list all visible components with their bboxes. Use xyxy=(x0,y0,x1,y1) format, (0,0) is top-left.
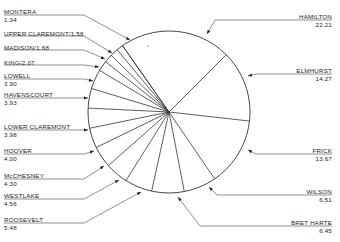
slice-label-name: McCHESNEY xyxy=(4,172,44,179)
slice-label: ELMHURST14.27 xyxy=(296,67,332,82)
arrow-icon xyxy=(101,56,105,59)
slice-label-name: LOWER CLAREMONT xyxy=(4,123,70,130)
slice-label-value: 5.48 xyxy=(4,224,43,231)
slice-label-name: HOOVER xyxy=(4,147,32,154)
arrow-icon xyxy=(90,151,94,154)
speck xyxy=(147,45,149,47)
arrow-icon xyxy=(207,30,210,34)
slice-label: WESTLAKE4.56 xyxy=(4,192,39,207)
slice-label-value: 22.21 xyxy=(299,21,332,28)
slice-label-value: 3.90 xyxy=(4,80,30,87)
leader-line xyxy=(4,50,105,59)
arrow-icon xyxy=(108,50,112,53)
arrow-icon xyxy=(248,150,252,153)
slice-label-name: LOWELL xyxy=(4,72,30,79)
slice-label-name: HAMILTON xyxy=(299,13,332,20)
slice-label-value: 4.30 xyxy=(4,180,44,187)
slice-label-value: 4.00 xyxy=(4,155,32,162)
slice-label: LOWELL3.90 xyxy=(4,72,30,87)
slice-label: ROOSEVELT5.48 xyxy=(4,216,43,231)
slice-label-value: 14.27 xyxy=(296,75,332,82)
slice-label-name: ROOSEVELT xyxy=(4,216,43,223)
slice-label-name: FRICK xyxy=(312,147,332,154)
pie-slices xyxy=(88,31,250,193)
arrow-icon xyxy=(84,128,88,131)
slice-label: MONTERA1.34 xyxy=(4,8,36,23)
slice-label-name: WESTLAKE xyxy=(4,192,39,199)
slice-label-name: MONTERA xyxy=(4,8,36,15)
slice-label-value: 13.67 xyxy=(312,155,332,162)
arrow-icon xyxy=(84,96,88,99)
slice-label: WILSON6.51 xyxy=(306,188,332,203)
slice-label: KING/2.07 xyxy=(4,59,35,66)
slice-label: BRET HARTE6.45 xyxy=(291,219,332,234)
slice-label-name: HAVENSCOURT xyxy=(4,91,53,98)
slice-label-value: 3.93 xyxy=(4,99,53,106)
arrow-icon xyxy=(126,37,130,40)
arrow-icon xyxy=(178,197,182,201)
arrow-icon xyxy=(89,79,93,82)
slice-label: FRICK13.67 xyxy=(312,147,332,162)
slice-label-name: KING/2.07 xyxy=(4,59,35,66)
arrow-icon xyxy=(137,192,141,195)
arrow-icon xyxy=(95,65,99,68)
arrow-icon xyxy=(100,166,104,170)
slice-label-value: 1.34 xyxy=(4,16,36,23)
slice-label-name: ELMHURST xyxy=(296,67,332,74)
slice-label: HOOVER4.00 xyxy=(4,147,32,162)
slice-label: LOWER CLAREMONT3.98 xyxy=(4,123,70,138)
slice-label: HAVENSCOURT3.93 xyxy=(4,91,53,106)
slice-label: HAMILTON22.21 xyxy=(299,13,332,28)
slice-label: MADISON/1.68 xyxy=(4,44,49,51)
slice-label-name: MADISON/1.68 xyxy=(4,44,49,51)
slice-label-value: 3.98 xyxy=(4,131,70,138)
slice-label-name: BRET HARTE xyxy=(291,219,332,226)
slice-label-name: UPPER CLAREMONT/1.58 xyxy=(4,30,84,37)
slice-label-value: 6.51 xyxy=(306,196,332,203)
slice-label: UPPER CLAREMONT/1.58 xyxy=(4,30,84,37)
slice-label-name: WILSON xyxy=(306,188,332,195)
slice-label-value: 4.56 xyxy=(4,200,39,207)
arrow-icon xyxy=(115,180,119,183)
slice-label: McCHESNEY4.30 xyxy=(4,172,44,187)
slice-label-value: 6.45 xyxy=(291,227,332,234)
